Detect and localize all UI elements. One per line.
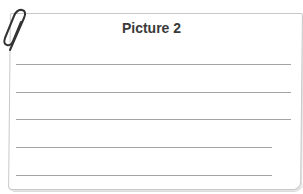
writing-line-5[interactable] bbox=[16, 175, 272, 176]
writing-line-1[interactable] bbox=[16, 64, 291, 65]
writing-line-4[interactable] bbox=[16, 147, 272, 148]
paperclip-icon bbox=[2, 4, 32, 54]
writing-line-3[interactable] bbox=[16, 119, 291, 120]
card-title: Picture 2 bbox=[0, 20, 303, 36]
writing-line-2[interactable] bbox=[16, 92, 291, 93]
note-card bbox=[8, 13, 303, 190]
